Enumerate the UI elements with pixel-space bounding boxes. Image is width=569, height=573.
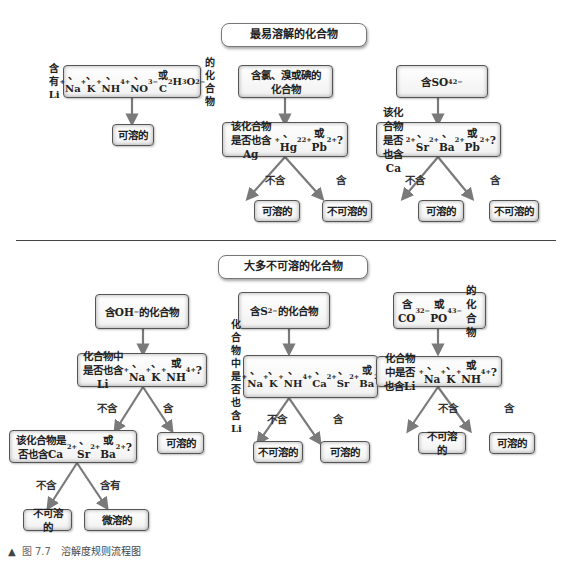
result-soluble: 可溶的	[489, 432, 535, 454]
condition-sulfide: 含S2−的化合物	[238, 292, 330, 329]
branch-label-no: 不含	[405, 172, 425, 187]
branch-label-yes: 含	[333, 411, 343, 426]
condition-hydroxide: 含OH−的化合物	[95, 294, 189, 329]
condition-halide: 含氯、溴或碘的化合物	[238, 65, 333, 98]
branch-label-yes: 含	[504, 400, 514, 415]
branch-label-no: 不含	[267, 411, 287, 426]
result-soluble: 可溶的	[157, 432, 204, 454]
result-soluble: 可溶的	[112, 124, 154, 146]
question-ag-hg-pb: 该化合物是否也含Ag+、Hg22+或Pb2+?	[222, 122, 348, 157]
branch-label-yes: 含	[163, 400, 173, 415]
result-insoluble: 不可溶的	[322, 200, 372, 222]
result-soluble: 可溶的	[320, 441, 370, 463]
condition-carbonate-phosphate: 含CO32−或PO43−的化合物	[393, 292, 486, 329]
question-alkali-ammonium: 化合物中是否也含Li+、Na+、K+或NH4+?	[77, 353, 207, 387]
condition-alkali-nitrate-acetate: 含有Li+、Na+、K+、NH4+、NO3−或C2H3O2−的化合物	[63, 65, 201, 98]
branch-label-no: 不含	[97, 400, 117, 415]
triangle-marker-icon: ▲	[8, 546, 16, 557]
question-alkali-alkaline-earth: 化合物中是否也含Li+、Na+、K+、NH4+、Ca2+、Sr2+或Ba2+?	[243, 355, 378, 398]
question-ca-sr-ba: 该化合物是否也含Ca2+、Sr2+或Ba2+?	[9, 430, 137, 463]
figure-number: 图 7.7	[22, 546, 51, 557]
section-divider	[16, 240, 556, 241]
branch-label-yes: 含	[336, 172, 346, 187]
branch-label-yes: 含	[490, 172, 500, 187]
result-insoluble: 不可溶的	[23, 509, 72, 531]
branch-label-yes: 含有	[100, 477, 120, 492]
condition-sulfate: 含SO42−	[396, 65, 488, 98]
title-most-soluble: 最易溶解的化合物	[221, 23, 367, 47]
result-soluble: 可溶的	[254, 200, 300, 222]
question-alkali-ammonium: 化合物中是否也含Li+、Na+、K+或NH4+?	[376, 356, 502, 387]
branch-label-no: 不含	[265, 172, 285, 187]
caption-text: 溶解度规则流程图	[61, 546, 141, 557]
figure-caption: ▲图 7.7溶解度规则流程图	[8, 543, 141, 558]
result-soluble: 可溶的	[418, 200, 464, 222]
question-ca-sr-ba-pb: 该化合物是否也含Ca2+、Sr2+、Ba2+或Pb2+?	[376, 122, 501, 157]
result-insoluble: 不可溶的	[489, 200, 539, 222]
branch-label-no: 不含	[36, 477, 56, 492]
result-insoluble: 不可溶的	[418, 432, 466, 454]
result-slightly-soluble: 微溶的	[84, 509, 149, 531]
branch-label-no: 不含	[438, 400, 458, 415]
title-mostly-insoluble: 大多不可溶的化合物	[218, 255, 368, 279]
result-insoluble: 不可溶的	[253, 441, 303, 463]
